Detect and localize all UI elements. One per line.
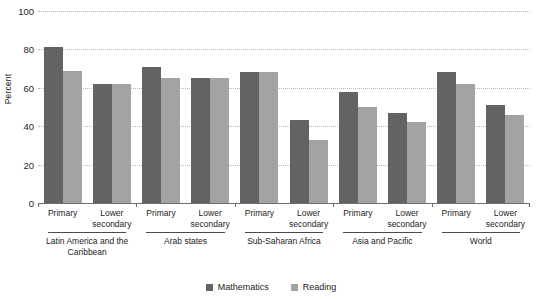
x-axis-tick-5 (529, 203, 530, 207)
region-rule-4 (442, 232, 520, 233)
bar-reading-9 (505, 115, 524, 203)
y-axis-tick-40: 40 (8, 121, 34, 132)
bar-mathematics-0 (44, 47, 63, 203)
grouped-bar-chart: Percent 100806040200 PrimaryLower second… (0, 0, 542, 299)
region-label-0: Latin America and the Caribbean (38, 236, 136, 257)
bar-reading-5 (309, 140, 328, 203)
bar-mathematics-9 (486, 105, 505, 203)
x-axis-tick-4 (432, 203, 433, 207)
region-label-1: Arab states (136, 236, 234, 247)
legend-label: Reading (303, 282, 337, 292)
bar-mathematics-8 (437, 72, 456, 203)
region-rule-2 (245, 232, 323, 233)
y-axis-tick-60: 60 (8, 82, 34, 93)
bar-mathematics-5 (290, 120, 309, 203)
bar-reading-8 (456, 84, 475, 203)
bar-reading-2 (161, 78, 180, 203)
legend-swatch-mathematics-icon (206, 284, 213, 291)
x-axis-tick-3 (333, 203, 334, 207)
bar-reading-3 (210, 78, 229, 203)
bar-mathematics-7 (388, 113, 407, 203)
region-rule-3 (343, 232, 421, 233)
region-rule-1 (146, 232, 224, 233)
bar-mathematics-2 (142, 67, 161, 203)
bar-reading-6 (358, 107, 377, 203)
legend-swatch-reading-icon (291, 284, 298, 291)
y-axis-tick-80: 80 (8, 44, 34, 55)
y-axis-tick-100: 100 (8, 6, 34, 17)
bar-reading-0 (63, 71, 82, 203)
x-axis-tick-1 (136, 203, 137, 207)
x-axis-tick-0 (38, 203, 39, 207)
x-axis-region-labels: Latin America and the CaribbeanArab stat… (38, 232, 530, 280)
region-rule-0 (48, 232, 126, 233)
bar-series-container (38, 11, 530, 203)
bar-reading-1 (112, 84, 131, 203)
bar-mathematics-1 (93, 84, 112, 203)
plot-area (38, 11, 530, 203)
bar-mathematics-3 (191, 78, 210, 203)
bar-mathematics-6 (339, 92, 358, 203)
y-axis-tick-20: 20 (8, 159, 34, 170)
bar-reading-4 (259, 72, 278, 203)
region-label-2: Sub-Saharan Africa (235, 236, 333, 247)
legend-label: Mathematics (218, 282, 269, 292)
region-label-3: Asia and Pacific (333, 236, 431, 247)
bar-mathematics-4 (240, 72, 259, 203)
bar-reading-7 (407, 122, 426, 203)
level-label-9: Lower secondary (474, 208, 536, 229)
legend-item-mathematics: Mathematics (206, 282, 269, 292)
legend-item-reading: Reading (291, 282, 337, 292)
y-axis-tick-0: 0 (8, 198, 34, 209)
y-axis-tick-labels: 100806040200 (2, 0, 34, 299)
region-label-4: World (432, 236, 530, 247)
chart-legend: MathematicsReading (0, 279, 542, 295)
x-axis-level-labels: PrimaryLower secondaryPrimaryLower secon… (38, 208, 530, 230)
x-axis-tick-2 (235, 203, 236, 207)
